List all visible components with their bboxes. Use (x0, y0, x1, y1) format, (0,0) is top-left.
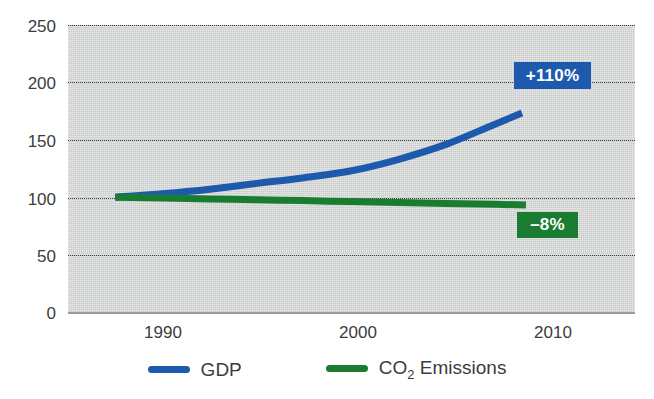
legend-label-co2-tail: Emissions (415, 357, 507, 378)
legend-label-co2-subscript: 2 (407, 366, 414, 381)
gdp-line (115, 113, 522, 197)
legend-swatch-co2-icon (326, 365, 368, 372)
gdp-callout-badge: +110% (514, 62, 591, 89)
legend-label-gdp-text: GDP (201, 359, 242, 380)
legend-label-co2: CO2 Emissions (379, 358, 507, 381)
legend-item-co2: CO2 Emissions (326, 358, 507, 381)
co2-callout-badge: –8% (517, 212, 578, 238)
legend-label-gdp: GDP (201, 360, 242, 379)
co2-line (115, 197, 526, 205)
legend-label-co2-text: CO (379, 357, 408, 378)
legend-item-gdp: GDP (148, 360, 242, 379)
chart-canvas: 250 200 150 100 50 0 1990 2000 2010 +110… (0, 0, 654, 399)
series-layer (0, 0, 654, 399)
chart-legend: GDP CO2 Emissions (0, 352, 654, 386)
legend-swatch-gdp-icon (148, 366, 190, 373)
